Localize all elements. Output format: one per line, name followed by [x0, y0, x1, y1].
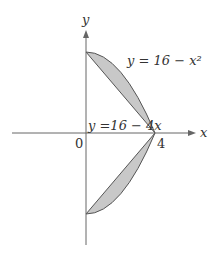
x-tick-4: 4	[157, 136, 165, 151]
lower-shaded-region	[86, 133, 155, 214]
x-axis-arrow-icon	[188, 130, 196, 136]
graph-svg: x y 0 4 y = 16 − x² y =16 − 4x	[0, 0, 212, 253]
origin-label: 0	[75, 136, 83, 151]
line-label: y =16 − 4x	[87, 118, 162, 133]
parabola-label: y = 16 − x²	[126, 53, 202, 68]
y-axis-label: y	[81, 12, 90, 27]
y-axis-arrow-icon	[83, 30, 89, 38]
graph-figure: x y 0 4 y = 16 − x² y =16 − 4x	[0, 0, 212, 253]
x-axis-label: x	[200, 125, 208, 140]
